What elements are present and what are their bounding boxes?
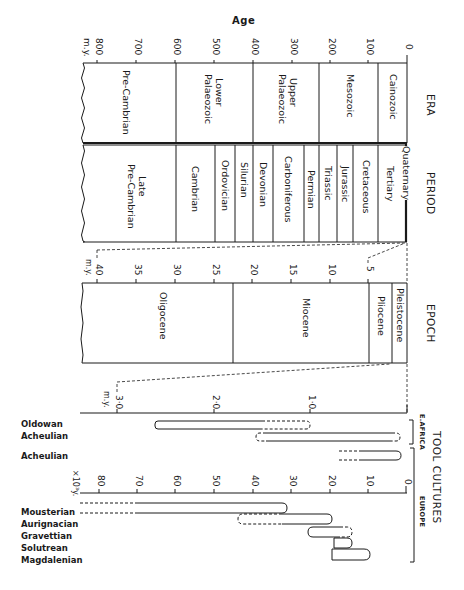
age-tick-800: 800 (94, 38, 104, 55)
era-pre-cambrian: Pre-Cambrian (121, 70, 131, 135)
period-cambrian: Cambrian (190, 166, 200, 212)
epoch-tick-15: 15 (288, 264, 298, 275)
age-tick-100: 100 (365, 38, 375, 55)
epoch-tick-20: 20 (249, 264, 259, 275)
age-tick-500: 500 (211, 38, 221, 55)
epoch-tick-35: 35 (133, 264, 143, 275)
era-lower-palaeozoic-1: Lower (214, 78, 224, 106)
age-tick-0: 0 (404, 44, 414, 50)
geologic-timescale-chart: Age 0 100 200 300 400 500 600 700 800 m.… (0, 0, 464, 590)
chart-title: Age (232, 16, 255, 26)
age-tick-700: 700 (133, 38, 143, 55)
culture-gravettian: Gravettian (21, 531, 72, 541)
culture-aurignacian: Aurignacian (21, 519, 78, 529)
pleistocene-axis-unit: m.y. (101, 391, 111, 407)
epoch-tick-5: 5 (365, 266, 375, 272)
row-label-tool-cultures: TOOL CULTURES (432, 431, 442, 524)
pleistocene-tick-2: 2·0 (211, 395, 221, 409)
europe-tick-70: 70 (134, 475, 144, 486)
pleistocene-tick-3: 3·0 (114, 395, 124, 409)
culture-acheulian-africa: Acheulian (21, 431, 68, 441)
pleistocene-tick-1: 1·0 (307, 395, 317, 409)
culture-magdalenian: Magdalenian (21, 555, 83, 565)
epoch-miocene: Miocene (301, 298, 311, 338)
era-lower-palaeozoic-2: Palaeozoic (203, 74, 213, 124)
epoch-tick-25: 25 (211, 264, 221, 275)
europe-tick-0: 0 (403, 479, 413, 485)
epoch-oligocene: Oligocene (158, 292, 168, 340)
epoch-tick-10: 10 (327, 264, 337, 275)
europe-tick-50: 50 (211, 475, 221, 486)
age-tick-600: 600 (172, 38, 182, 55)
row-label-period: PERIOD (426, 172, 436, 215)
row-label-epoch: EPOCH (426, 304, 436, 343)
culture-mousterian: Mousterian (21, 507, 75, 517)
period-jurassic: Jurassic (340, 166, 350, 202)
period-ordovician: Ordovician (220, 160, 230, 211)
period-triassic: Triassic (323, 166, 333, 201)
age-axis-unit: m.y. (82, 38, 92, 57)
culture-oldowan: Oldowan (21, 419, 63, 429)
epoch-pleistocene: Pleistocene (395, 288, 405, 342)
europe-axis-unit: ×10³y. (70, 470, 80, 496)
europe-tick-30: 30 (288, 475, 298, 486)
region-label-e-africa: E.AFRICA (417, 414, 427, 450)
age-tick-200: 200 (327, 38, 337, 55)
period-carboniferous: Carboniferous (283, 156, 293, 223)
europe-tick-80: 80 (96, 475, 106, 486)
period-late-pre-cambrian-1: Late (137, 176, 147, 197)
epoch-axis-unit: m.y. (83, 259, 93, 275)
period-tertiary: Tertiary (385, 166, 395, 202)
epoch-tick-40: 40 (94, 264, 104, 275)
europe-tick-60: 60 (172, 475, 182, 486)
period-devonian: Devonian (258, 162, 268, 207)
row-label-era: ERA (426, 94, 436, 116)
period-silurian: Silurian (239, 162, 249, 198)
era-cainozoic: Cainozoic (388, 74, 398, 120)
era-mesozoic: Mesozoic (345, 74, 355, 117)
period-cretaceous: Cretaceous (361, 160, 371, 214)
europe-tick-40: 40 (250, 475, 260, 486)
age-tick-400: 400 (250, 38, 260, 55)
culture-solutrean: Solutrean (21, 543, 68, 553)
period-permian: Permian (306, 170, 316, 209)
region-label-europe: EUROPE (417, 496, 427, 527)
epoch-pliocene: Pliocene (376, 296, 386, 336)
epoch-tick-30: 30 (172, 264, 182, 275)
era-upper-palaeozoic-1: Upper (288, 78, 298, 107)
era-upper-palaeozoic-2: Palaeozoic (277, 74, 287, 124)
period-quaternary: Quaternary (401, 146, 411, 200)
europe-tick-20: 20 (327, 475, 337, 486)
period-late-pre-cambrian-2: Pre-Cambrian (126, 164, 136, 229)
europe-tick-10: 10 (365, 475, 375, 486)
age-tick-300: 300 (289, 38, 299, 55)
culture-acheulian-europe: Acheulian (21, 451, 68, 461)
